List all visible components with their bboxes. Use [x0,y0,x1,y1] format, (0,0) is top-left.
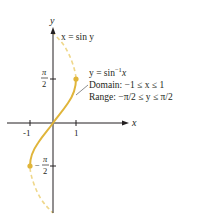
endpoint-top [73,76,78,81]
y-tick-label-neg-pi2-num: π [43,154,48,164]
annotation-domain: Domain: −1 ≤ x ≤ 1 [89,80,164,90]
y-tick-label-neg-pi2-den: 2 [43,166,47,176]
x-axis-label: x [131,117,137,128]
y-axis-arrow-icon [51,27,56,34]
x-tick-label-neg1: -1 [23,128,31,138]
y-tick-label-pi2-den: 2 [42,79,46,89]
annotation-range: Range: −π/2 ≤ y ≤ π/2 [89,92,173,102]
x-axis-arrow-icon [122,121,129,126]
endpoint-bottom [27,163,32,168]
y-tick-label-pi2-num: π [42,67,47,77]
arcsine-graph: y x -1 1 π 2 − π 2 x = sin y y = sin−1x … [0,0,203,220]
y-tick-label-neg-sign: − [35,160,40,170]
x-tick-label-1: 1 [74,128,79,138]
curve-label: x = sin y [61,32,94,42]
annotation-leader [76,85,88,95]
annotation-line1: y = sin−1x [89,66,127,78]
y-axis-label: y [49,15,55,26]
dashed-curve-bottom [30,168,53,213]
